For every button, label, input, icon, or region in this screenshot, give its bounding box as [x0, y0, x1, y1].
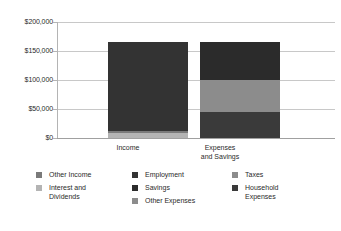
legend-item-employment[interactable]: Employment: [132, 170, 228, 182]
legend-swatch-interest-and-dividends-icon: [36, 185, 42, 191]
y-axis-tick-label-100000: $100,000: [0, 76, 53, 84]
gridline-100000: [57, 80, 335, 81]
legend: Other Income Interest and Dividends Empl…: [36, 170, 336, 212]
legend-label-employment: Employment: [145, 170, 228, 179]
y-axis-tick-label-0: $0: [0, 134, 53, 142]
y-axis-labels: $200,000 $150,000 $100,000 $50,000 $0: [0, 22, 53, 138]
bar-segment-expenses-taxes[interactable]: [200, 80, 280, 112]
legend-label-savings: Savings: [145, 183, 228, 192]
legend-swatch-other-expenses-icon: [132, 198, 138, 204]
gridline-200000: [57, 22, 335, 23]
bar-segment-expenses-household-expenses[interactable]: [200, 112, 280, 138]
legend-item-other-income[interactable]: Other Income: [36, 170, 128, 182]
legend-column-1: Other Income Interest and Dividends: [36, 170, 128, 202]
legend-item-interest-and-dividends[interactable]: Interest and Dividends: [36, 183, 128, 201]
bar-segment-expenses-savings[interactable]: [200, 42, 280, 80]
y-axis-line: [57, 22, 58, 138]
legend-swatch-taxes-icon: [232, 172, 238, 178]
y-axis-tick-label-150000: $150,000: [0, 47, 53, 55]
legend-item-other-expenses[interactable]: Other Expenses: [132, 196, 228, 208]
legend-column-3: Taxes Household Expenses: [232, 170, 332, 202]
legend-item-taxes[interactable]: Taxes: [232, 170, 332, 182]
legend-swatch-savings-icon: [132, 185, 138, 191]
legend-item-household-expenses[interactable]: Household Expenses: [232, 183, 332, 201]
y-axis-tick-label-50000: $50,000: [0, 105, 53, 113]
gridline-150000: [57, 51, 335, 52]
plot-area: [57, 22, 335, 138]
x-axis-label-income: Income: [88, 143, 168, 152]
legend-label-interest-and-dividends: Interest and Dividends: [49, 183, 128, 201]
legend-label-other-expenses: Other Expenses: [145, 196, 228, 205]
bar-expenses-and-savings[interactable]: [200, 42, 280, 138]
legend-label-taxes: Taxes: [245, 170, 332, 179]
y-axis-tick-label-200000: $200,000: [0, 18, 53, 26]
legend-label-other-income: Other Income: [49, 170, 128, 179]
bar-segment-income-interest-and-dividends[interactable]: [108, 133, 188, 138]
x-axis-label-expenses-and-savings: Expenses and Savings: [180, 143, 260, 161]
gridline-50000: [57, 109, 335, 110]
bar-segment-income-employment[interactable]: [108, 42, 188, 130]
legend-swatch-employment-icon: [132, 172, 138, 178]
legend-label-household-expenses: Household Expenses: [245, 183, 332, 201]
bar-income[interactable]: [108, 42, 188, 138]
x-axis-line: [57, 138, 335, 139]
legend-column-2: Employment Savings Other Expenses: [132, 170, 228, 209]
legend-swatch-other-income-icon: [36, 172, 42, 178]
stacked-bar-chart: $200,000 $150,000 $100,000 $50,000 $0: [0, 0, 341, 231]
legend-item-savings[interactable]: Savings: [132, 183, 228, 195]
legend-swatch-household-expenses-icon: [232, 185, 238, 191]
